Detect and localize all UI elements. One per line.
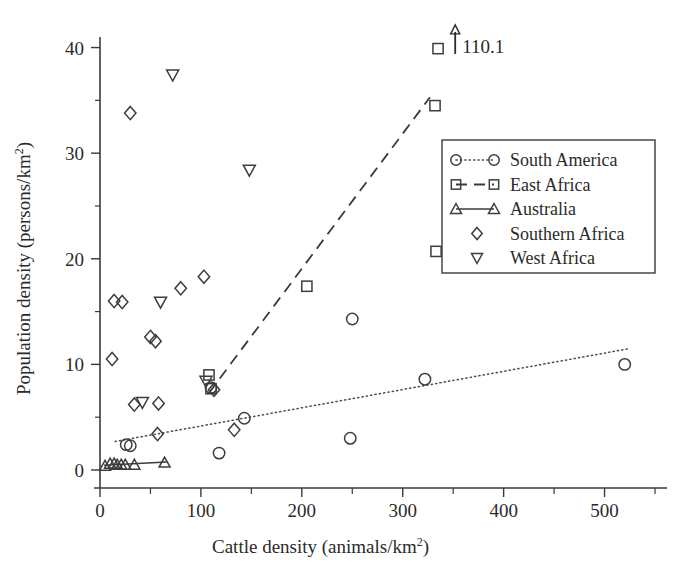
y-tick-label: 40 (65, 38, 84, 59)
fit-line-south-america (115, 349, 630, 442)
point-southern-africa (229, 423, 240, 436)
y-tick-labels: 010203040 (65, 38, 84, 481)
point-southern-africa (106, 353, 117, 366)
point-south-america (213, 447, 224, 458)
x-tick-label: 300 (388, 500, 417, 521)
legend-entry-label: East Africa (510, 175, 590, 195)
point-east-africa (431, 246, 441, 256)
x-axis-title: Cattle density (animals/km2) (212, 535, 429, 558)
x-tick-label: 100 (187, 500, 216, 521)
point-southern-africa (153, 397, 164, 410)
annotations: 110.1 (451, 25, 505, 57)
point-southern-africa (125, 106, 136, 119)
legend-entry-label: South America (510, 150, 617, 170)
legend: South AmericaEast AfricaAustraliaSouther… (442, 140, 655, 273)
x-tick-label: 500 (590, 500, 619, 521)
point-east-africa (204, 370, 214, 380)
y-tick-label: 10 (65, 354, 84, 375)
x-tick-labels: 0100200300400500 (95, 500, 619, 521)
scatter-plot: 0100200300400500 010203040 110.1 South A… (0, 0, 680, 577)
x-tick-label: 200 (288, 500, 317, 521)
off-scale-value-label: 110.1 (462, 36, 504, 57)
chart-page: 0100200300400500 010203040 110.1 South A… (0, 0, 680, 577)
x-tick-label: 0 (95, 500, 105, 521)
point-east-africa (302, 281, 312, 291)
point-east-africa (433, 44, 443, 54)
point-south-america (619, 359, 630, 370)
point-southern-africa (198, 270, 209, 283)
x-tick-label: 400 (489, 500, 518, 521)
point-south-america (345, 433, 356, 444)
fit-line-east-africa (209, 97, 430, 393)
y-axis-title: Population density (persons/km2) (12, 142, 35, 395)
y-tick-label: 20 (65, 249, 84, 270)
point-south-america (419, 373, 430, 384)
point-west-africa (167, 70, 179, 81)
y-tick-label: 30 (65, 143, 84, 164)
legend-entry-label: West Africa (510, 248, 595, 268)
legend-entry-label: Southern Africa (510, 224, 624, 244)
point-east-africa (430, 101, 440, 111)
point-southern-africa (175, 282, 186, 295)
y-tick-label: 0 (75, 460, 85, 481)
legend-entry-label: Australia (510, 199, 576, 219)
point-west-africa (243, 165, 255, 176)
point-west-africa (155, 297, 167, 308)
point-south-america (347, 313, 358, 324)
